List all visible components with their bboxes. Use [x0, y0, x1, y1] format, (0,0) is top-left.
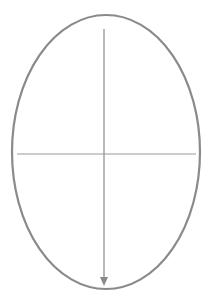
ellipse-diagram [0, 0, 210, 305]
ellipse-outline [12, 15, 200, 289]
arrowhead-down-icon [100, 277, 108, 286]
